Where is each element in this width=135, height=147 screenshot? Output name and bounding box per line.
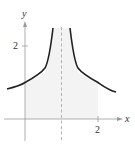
y-axis-arrow-icon: [23, 21, 27, 27]
y-axis-label: y: [21, 8, 27, 19]
graph: y x 2 2: [0, 0, 135, 147]
x-axis-arrow-icon: [117, 117, 123, 121]
x-axis-label: x: [124, 113, 130, 124]
y-tick-label-2: 2: [13, 40, 18, 51]
x-tick-label-2: 2: [95, 124, 100, 135]
